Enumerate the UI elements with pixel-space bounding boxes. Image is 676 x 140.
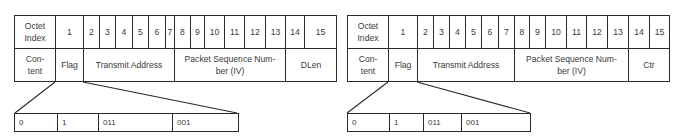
- flag-bit-field: 0: [15, 114, 58, 132]
- flag-bit-field: 011: [424, 114, 462, 132]
- flag-bits-table: 0 1 011 001: [347, 113, 531, 132]
- frame-format-diagram-right: OctetIndex 1 2 3 4 5 6 7 8 9 10 11 12 13…: [338, 0, 676, 140]
- flag-bit-field: 1: [58, 114, 99, 132]
- flag-bit-field: 001: [173, 114, 239, 132]
- flag-bit-field: 011: [99, 114, 173, 132]
- flag-bit-field: 1: [390, 114, 424, 132]
- flag-bit-field: 001: [462, 114, 531, 132]
- flag-bits-table: 0 1 011 001: [14, 113, 239, 132]
- flag-bit-field: 0: [348, 114, 390, 132]
- frame-format-diagram-left: OctetIndex 1 2 3 4 5 6 7 8 9 10 11 12 13…: [0, 0, 338, 140]
